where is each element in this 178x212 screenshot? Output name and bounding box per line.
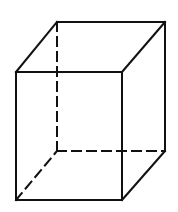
visible-edge-front_bottom_right-back_bottom_right [122,151,165,200]
visible-edge-front_top_right-back_top_right [122,22,165,72]
visible-edge-front_top_left-back_top_left [16,22,57,72]
cuboid-wireframe [0,0,178,212]
hidden-edge-front_bottom_left-back_bottom_left [16,151,57,200]
cuboid-diagram [0,0,178,212]
